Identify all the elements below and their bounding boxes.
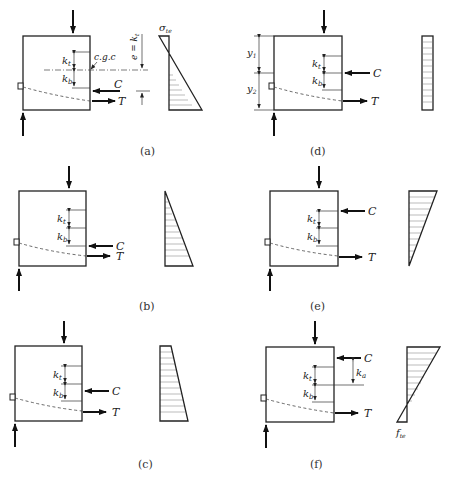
tendon-anchor-icon — [265, 239, 270, 245]
caption-f: (f) — [310, 458, 323, 471]
tendon-profile — [270, 243, 338, 256]
compression-label: C — [364, 352, 373, 365]
ka-label: ka — [356, 367, 366, 380]
beam-section — [266, 347, 334, 422]
kb-label: kb — [303, 388, 314, 401]
tension-label: T — [118, 95, 127, 108]
kt-label: kt — [303, 370, 312, 383]
stress-diagram-b — [165, 191, 193, 266]
beam-section — [15, 346, 82, 421]
caption-e: (e) — [310, 300, 325, 313]
kb-label: kb — [312, 75, 323, 88]
tension-label: T — [112, 406, 121, 419]
panel-c: kt kb C T (c) — [10, 321, 188, 471]
stress-label: σte — [159, 22, 172, 34]
stress-diagram-d — [422, 36, 433, 110]
kt-label: kt — [307, 213, 316, 226]
caption-c: (c) — [138, 458, 153, 471]
cgc-label: c.g.c — [94, 52, 116, 62]
compression-label: C — [114, 78, 123, 91]
compression-label: C — [368, 205, 377, 218]
compression-label: C — [112, 385, 121, 398]
stress-diagram-c — [160, 346, 188, 421]
caption-a: (a) — [140, 145, 155, 158]
panel-d: y1 y2 kt kb C T (d) — [246, 10, 433, 158]
tendon-profile — [274, 87, 342, 101]
tendon-profile — [15, 398, 82, 411]
stress-diagram-a: σte — [159, 22, 202, 110]
tendon-profile — [266, 399, 334, 413]
tension-label: T — [368, 251, 377, 264]
beam-section — [23, 36, 90, 110]
beam-section — [19, 191, 86, 266]
stress-diagram-f: fte — [395, 347, 440, 439]
y1-label: y1 — [246, 47, 256, 59]
tendon-profile — [23, 87, 90, 101]
eccentricity-label: e = kt — [129, 33, 140, 60]
stress-label: fte — [395, 427, 406, 439]
tendon-profile — [19, 243, 86, 256]
y2-label: y2 — [246, 83, 257, 95]
panel-f: kt kb C ka T fte (f) — [261, 321, 440, 471]
kb-label: kb — [57, 231, 68, 244]
tendon-anchor-icon — [261, 395, 266, 401]
kt-label: kt — [57, 213, 66, 226]
tension-label: T — [364, 407, 373, 420]
kb-label: kb — [62, 73, 73, 86]
tendon-anchor-icon — [10, 394, 15, 400]
beam-section — [270, 191, 338, 266]
compression-label: C — [373, 67, 382, 80]
prestress-diagram: kt kb c.g.c C T e = kt σte (a) — [0, 0, 458, 485]
tendon-anchor-icon — [14, 239, 19, 245]
tension-label: T — [371, 95, 380, 108]
kt-label: kt — [312, 58, 321, 71]
stress-diagram-e — [409, 191, 437, 266]
kb-label: kb — [53, 387, 64, 400]
kt-label: kt — [62, 55, 71, 68]
kb-label: kb — [307, 231, 318, 244]
kt-label: kt — [53, 369, 62, 382]
caption-b: (b) — [139, 300, 155, 313]
caption-d: (d) — [310, 145, 326, 158]
panel-a: kt kb c.g.c C T e = kt σte (a) — [18, 10, 202, 158]
tendon-anchor-icon — [269, 83, 274, 89]
tendon-anchor-icon — [18, 83, 23, 89]
panel-b: kt kb C T (b) — [14, 166, 193, 313]
panel-e: kt kb C T (e) — [265, 166, 437, 313]
